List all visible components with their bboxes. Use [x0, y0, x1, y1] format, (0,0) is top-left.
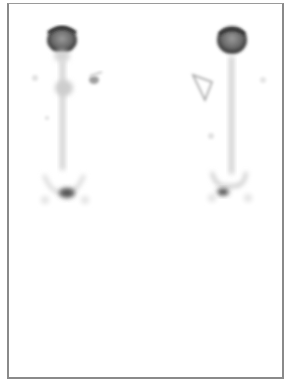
scan-image: [0, 0, 290, 384]
view-right: [193, 26, 266, 202]
spine: [229, 56, 234, 174]
scapula: [193, 75, 212, 100]
view-left: [32, 27, 102, 204]
bladder: [59, 188, 75, 198]
bladder: [217, 189, 229, 196]
spine: [60, 60, 65, 170]
